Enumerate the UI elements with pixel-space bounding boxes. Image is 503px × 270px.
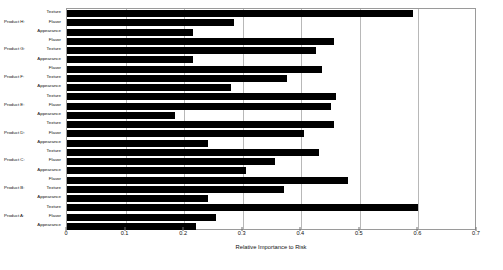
category-label: Flavor — [49, 103, 61, 107]
plot-area — [66, 8, 476, 230]
category-label: Flavor — [49, 20, 61, 24]
bar-row — [67, 29, 477, 36]
bar-row — [67, 66, 477, 73]
bar — [67, 38, 334, 45]
category-label-column: TextureFlavorAppearanceFlavorTextureAppe… — [0, 8, 64, 230]
bar-row — [67, 121, 477, 128]
bar-row — [67, 103, 477, 110]
category-label: Texture — [47, 75, 61, 79]
bar — [67, 93, 336, 100]
category-label: Appearance — [37, 84, 61, 88]
bar-row — [67, 130, 477, 137]
category-label: Appearance — [37, 112, 61, 116]
bar — [67, 75, 287, 82]
bars-layer — [67, 9, 475, 229]
category-label: Appearance — [37, 29, 61, 33]
x-axis-ticks: 00.10.20.30.40.50.60.7 — [66, 231, 476, 243]
category-label: Texture — [47, 149, 61, 153]
bar-row — [67, 47, 477, 54]
bar-row — [67, 204, 477, 211]
x-tick-label: 0.2 — [179, 231, 187, 237]
category-label: Texture — [47, 186, 61, 190]
bar-row — [67, 56, 477, 63]
x-tick-label: 0 — [64, 231, 67, 237]
bar — [67, 112, 175, 119]
bar — [67, 186, 284, 193]
bar — [67, 223, 196, 230]
bar-row — [67, 186, 477, 193]
bar — [67, 84, 231, 91]
category-label: Texture — [47, 121, 61, 125]
bar-row — [67, 93, 477, 100]
bar-row — [67, 140, 477, 147]
bar-row — [67, 84, 477, 91]
bar — [67, 149, 319, 156]
category-label: Flavor — [49, 66, 61, 70]
category-label: Texture — [47, 10, 61, 14]
bar — [67, 29, 193, 36]
bar-row — [67, 223, 477, 230]
category-label: Flavor — [49, 158, 61, 162]
bar — [67, 140, 208, 147]
bar — [67, 19, 234, 26]
category-label: Flavor — [49, 38, 61, 42]
bar — [67, 177, 348, 184]
x-tick-label: 0.6 — [414, 231, 422, 237]
x-tick-label: 0.4 — [296, 231, 304, 237]
bar-row — [67, 112, 477, 119]
category-label: Appearance — [37, 140, 61, 144]
x-tick-label: 0.3 — [238, 231, 246, 237]
bar-row — [67, 19, 477, 26]
bar — [67, 167, 246, 174]
category-label: Appearance — [37, 57, 61, 61]
relative-importance-bar-chart: Product H:Product G:Product F:Product E:… — [0, 0, 503, 270]
bar-row — [67, 75, 477, 82]
bar — [67, 195, 208, 202]
bar — [67, 158, 275, 165]
bar — [67, 214, 216, 221]
bar — [67, 103, 331, 110]
bar — [67, 10, 413, 17]
bar-row — [67, 158, 477, 165]
bar-row — [67, 167, 477, 174]
category-label: Flavor — [49, 131, 61, 135]
bar — [67, 56, 193, 63]
bar — [67, 130, 304, 137]
x-axis-title: Relative Importance to Risk — [66, 245, 476, 251]
bar-row — [67, 177, 477, 184]
bar — [67, 47, 316, 54]
bar-row — [67, 195, 477, 202]
bar-row — [67, 214, 477, 221]
bar — [67, 204, 418, 211]
category-label: Appearance — [37, 195, 61, 199]
x-tick-label: 0.7 — [472, 231, 480, 237]
x-tick-label: 0.5 — [355, 231, 363, 237]
bar-row — [67, 149, 477, 156]
bar-row — [67, 10, 477, 17]
category-label: Appearance — [37, 168, 61, 172]
category-label: Flavor — [49, 214, 61, 218]
category-label: Appearance — [37, 223, 61, 227]
category-label: Texture — [47, 205, 61, 209]
category-label: Texture — [47, 47, 61, 51]
bar — [67, 66, 322, 73]
category-label: Texture — [47, 94, 61, 98]
bar — [67, 121, 334, 128]
x-tick-label: 0.1 — [121, 231, 129, 237]
category-label: Flavor — [49, 177, 61, 181]
bar-row — [67, 38, 477, 45]
